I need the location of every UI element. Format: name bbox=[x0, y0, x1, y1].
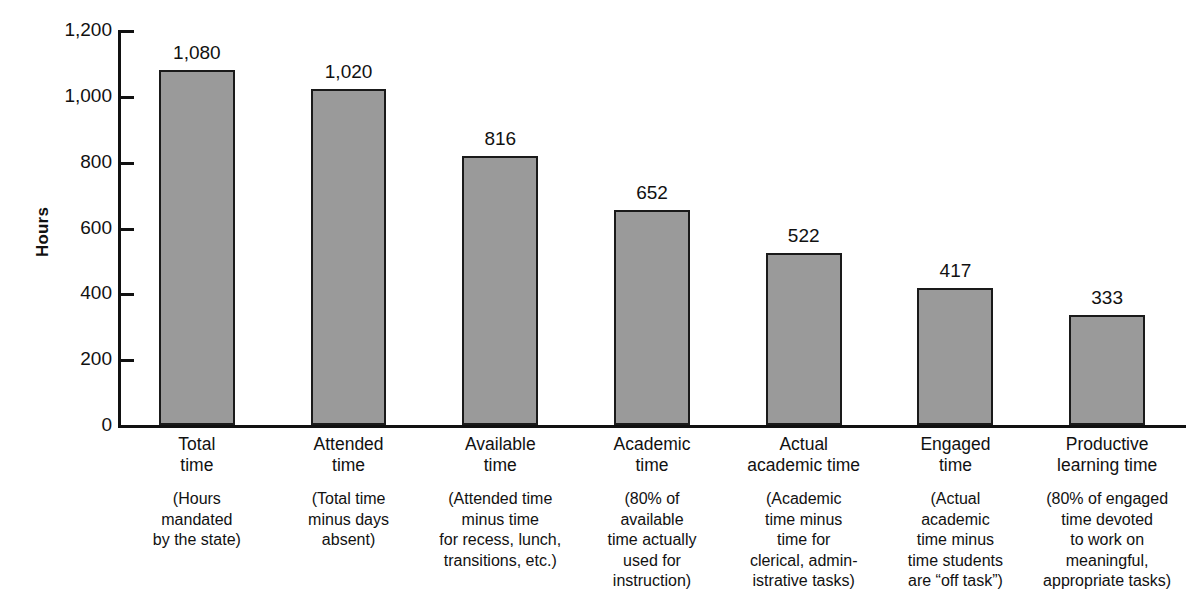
x-axis-category-description: (Total time minus days absent) bbox=[273, 489, 425, 551]
x-axis-category-name: Available time bbox=[424, 434, 576, 476]
y-axis-tick-label: 400 bbox=[80, 282, 112, 304]
x-axis-line bbox=[118, 425, 1186, 428]
y-axis-title: Hours bbox=[33, 177, 53, 287]
bar[interactable] bbox=[1069, 315, 1145, 425]
bar-slot: 652 bbox=[576, 30, 728, 425]
x-axis-category: Actual academic time(Academic time minus… bbox=[728, 434, 880, 592]
x-axis-category-labels: Total time(Hours mandated by the state)A… bbox=[121, 434, 1183, 609]
bar-slot: 1,020 bbox=[273, 30, 425, 425]
bar-chart: Hours 02004006008001,0001,200 1,0801,020… bbox=[0, 0, 1199, 615]
bar-value-label: 1,080 bbox=[121, 42, 273, 64]
bar-value-label: 417 bbox=[880, 260, 1032, 282]
bar-value-label: 333 bbox=[1031, 287, 1183, 309]
x-axis-category-description: (Academic time minus time for clerical, … bbox=[728, 489, 880, 592]
x-axis-category: Academic time(80% of available time actu… bbox=[576, 434, 728, 592]
bar-slot: 333 bbox=[1031, 30, 1183, 425]
x-axis-category: Productive learning time(80% of engaged … bbox=[1031, 434, 1183, 592]
bar[interactable] bbox=[311, 89, 387, 425]
x-axis-category-description: (80% of engaged time devoted to work on … bbox=[1031, 489, 1183, 592]
y-axis-tick-label: 1,000 bbox=[64, 85, 112, 107]
bar[interactable] bbox=[614, 210, 690, 425]
x-axis-category-description: (Actual academic time minus time student… bbox=[880, 489, 1032, 592]
bar-slot: 1,080 bbox=[121, 30, 273, 425]
x-axis-category-name: Actual academic time bbox=[728, 434, 880, 476]
y-axis-tick: 0 bbox=[121, 425, 134, 428]
x-axis-category-name: Academic time bbox=[576, 434, 728, 476]
x-axis-category: Attended time(Total time minus days abse… bbox=[273, 434, 425, 551]
x-axis-category-name: Engaged time bbox=[880, 434, 1032, 476]
bar[interactable] bbox=[462, 156, 538, 425]
bar-slot: 816 bbox=[424, 30, 576, 425]
y-axis-tick-label: 1,200 bbox=[64, 19, 112, 41]
y-axis-tick-label: 800 bbox=[80, 151, 112, 173]
x-axis-category: Engaged time(Actual academic time minus … bbox=[880, 434, 1032, 592]
bar[interactable] bbox=[917, 288, 993, 425]
y-axis-tick-label: 600 bbox=[80, 217, 112, 239]
bar-value-label: 522 bbox=[728, 225, 880, 247]
bar[interactable] bbox=[159, 70, 235, 426]
bar[interactable] bbox=[766, 253, 842, 425]
x-axis-category: Total time(Hours mandated by the state) bbox=[121, 434, 273, 551]
x-axis-category-description: (Hours mandated by the state) bbox=[121, 489, 273, 551]
x-axis-category-description: (80% of available time actually used for… bbox=[576, 489, 728, 592]
x-axis-category-name: Attended time bbox=[273, 434, 425, 476]
x-axis-category-name: Productive learning time bbox=[1031, 434, 1183, 476]
x-axis-category-description: (Attended time minus time for recess, lu… bbox=[424, 489, 576, 571]
x-axis-category-name: Total time bbox=[121, 434, 273, 476]
bar-value-label: 652 bbox=[576, 182, 728, 204]
y-axis-tick-label: 0 bbox=[101, 414, 112, 436]
bar-series: 1,0801,020816652522417333 bbox=[121, 30, 1183, 425]
plot-area: 02004006008001,0001,200 1,0801,020816652… bbox=[118, 30, 1183, 425]
bar-value-label: 1,020 bbox=[273, 61, 425, 83]
bar-value-label: 816 bbox=[424, 128, 576, 150]
y-axis-tick-label: 200 bbox=[80, 348, 112, 370]
x-axis-category: Available time(Attended time minus time … bbox=[424, 434, 576, 571]
bar-slot: 522 bbox=[728, 30, 880, 425]
bar-slot: 417 bbox=[880, 30, 1032, 425]
